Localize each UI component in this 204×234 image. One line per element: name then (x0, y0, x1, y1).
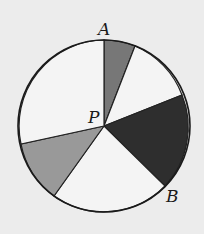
label-p: P (87, 107, 100, 127)
sectors (19, 40, 188, 212)
spinner-diagram: A P B (0, 0, 204, 234)
sector-white-3 (19, 40, 104, 144)
label-a: A (96, 19, 110, 39)
label-b: B (165, 186, 179, 206)
